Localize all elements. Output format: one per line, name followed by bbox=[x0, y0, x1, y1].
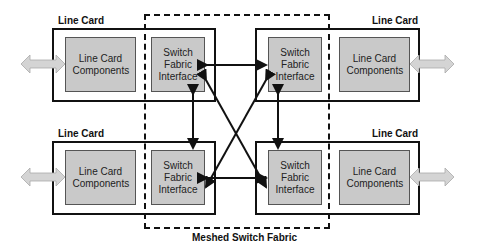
line-card-label-bottom-left: Line Card bbox=[58, 128, 104, 139]
line-card-components-top-right: Line Card Components bbox=[339, 37, 410, 92]
line-card-components-bottom-left: Line Card Components bbox=[65, 150, 136, 205]
switch-fabric-interface-top-right: Switch Fabric Interface bbox=[268, 37, 322, 92]
switch-fabric-interface-bottom-right: Switch Fabric Interface bbox=[268, 150, 322, 205]
switch-fabric-interface-top-left: Switch Fabric Interface bbox=[151, 37, 205, 92]
line-card-label-top-right: Line Card bbox=[372, 15, 418, 26]
switch-fabric-interface-bottom-left: Switch Fabric Interface bbox=[151, 150, 205, 205]
line-card-components-top-left: Line Card Components bbox=[65, 37, 136, 92]
line-card-label-top-left: Line Card bbox=[58, 15, 104, 26]
line-card-components-bottom-right: Line Card Components bbox=[339, 150, 410, 205]
meshed-switch-fabric-label: Meshed Switch Fabric bbox=[192, 232, 297, 243]
line-card-label-bottom-right: Line Card bbox=[372, 128, 418, 139]
